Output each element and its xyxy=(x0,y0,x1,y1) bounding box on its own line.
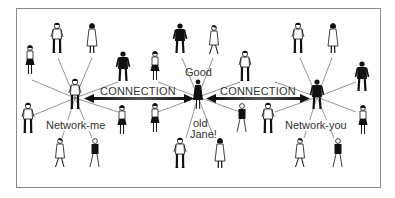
label-network-me: Network-me xyxy=(46,120,105,131)
label-good: Good xyxy=(185,67,212,78)
connection-label-right: CONNECTION xyxy=(220,86,296,97)
person-jane xyxy=(193,80,203,109)
label-jane: Jane! xyxy=(190,129,217,140)
network-diagram xyxy=(0,0,395,198)
person-me xyxy=(69,79,81,109)
person-you xyxy=(311,79,324,109)
label-network-you: Network-you xyxy=(285,120,347,131)
connection-label-left: CONNECTION xyxy=(100,86,176,97)
